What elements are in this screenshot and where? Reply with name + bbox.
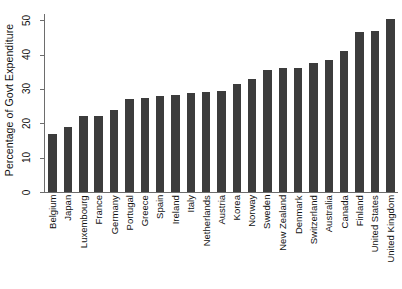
x-tick-label: Italy	[183, 194, 198, 289]
x-tick-label: Canada	[337, 194, 352, 289]
bar	[141, 98, 149, 192]
x-tick-label-text: Belgium	[48, 195, 58, 229]
y-tick-label: 40	[16, 49, 38, 61]
bar	[171, 95, 179, 192]
y-tick-label: 10	[16, 152, 38, 164]
y-tick-label-text: 50	[22, 15, 33, 26]
bar	[294, 68, 302, 192]
bar	[263, 70, 271, 192]
y-tick-label: 20	[16, 117, 38, 129]
x-axis-line	[44, 192, 398, 193]
bar	[156, 96, 164, 192]
x-tick-label-text: Austria	[217, 195, 227, 225]
y-tick-label: 30	[16, 83, 38, 95]
y-tick-mark	[40, 158, 45, 159]
x-tick-label-text: Sweden	[263, 195, 273, 229]
bar	[371, 31, 379, 192]
y-tick-label-text: 10	[22, 152, 33, 163]
x-tick-label: Greece	[137, 194, 152, 289]
x-tick-label: Spain	[152, 194, 167, 289]
y-tick-mark	[40, 55, 45, 56]
y-tick-label-text: 40	[22, 49, 33, 60]
y-tick-mark	[40, 192, 45, 193]
bar	[325, 60, 333, 192]
x-tick-label-text: United States	[370, 195, 380, 252]
x-tick-label-text: United Kingdom	[386, 195, 396, 263]
x-tick-label-text: Italy	[186, 195, 196, 212]
x-tick-label-text: Luxembourg	[79, 195, 89, 248]
x-tick-label-text: Norway	[247, 195, 257, 227]
x-tick-label-text: France	[94, 195, 104, 225]
bar	[64, 127, 72, 192]
x-tick-label: Japan	[60, 194, 75, 289]
y-tick-label: 0	[16, 186, 38, 198]
x-tick-label: Netherlands	[198, 194, 213, 289]
x-tick-label: Luxembourg	[76, 194, 91, 289]
bar	[309, 63, 317, 192]
y-axis-tick-labels: 01020304050	[18, 0, 40, 200]
x-tick-label: Ireland	[168, 194, 183, 289]
x-tick-label: New Zealand	[275, 194, 290, 289]
x-tick-label: United Kingdom	[383, 194, 398, 289]
bar	[217, 91, 225, 192]
x-tick-label-text: Portugal	[125, 195, 135, 230]
x-tick-label: Australia	[321, 194, 336, 289]
x-tick-label: Korea	[229, 194, 244, 289]
x-tick-label: United States	[367, 194, 382, 289]
x-tick-label: Germany	[106, 194, 121, 289]
x-tick-label: Norway	[245, 194, 260, 289]
x-tick-label: Belgium	[45, 194, 60, 289]
x-tick-label-text: Switzerland	[309, 195, 319, 244]
y-tick-mark	[40, 20, 45, 21]
x-tick-label: Austria	[214, 194, 229, 289]
bar	[94, 116, 102, 192]
y-tick-mark	[40, 89, 45, 90]
x-tick-label-text: Greece	[140, 195, 150, 226]
bar	[110, 110, 118, 192]
x-tick-label-text: Korea	[232, 195, 242, 220]
x-tick-label: Denmark	[291, 194, 306, 289]
bar	[279, 68, 287, 192]
x-tick-label: France	[91, 194, 106, 289]
bar	[202, 92, 210, 192]
y-axis-title-text: Percentage of Govt Expenditure	[3, 24, 15, 176]
bar	[187, 93, 195, 192]
x-tick-label: Switzerland	[306, 194, 321, 289]
x-tick-label: Portugal	[122, 194, 137, 289]
bar	[355, 32, 363, 192]
x-tick-label: Finland	[352, 194, 367, 289]
x-tick-label-text: Australia	[324, 195, 334, 232]
x-tick-label-text: Netherlands	[201, 195, 211, 246]
x-tick-label-text: Finland	[355, 195, 365, 226]
y-tick-label-text: 20	[22, 118, 33, 129]
x-tick-label-text: Ireland	[171, 195, 181, 224]
bar	[125, 99, 133, 192]
y-axis-title: Percentage of Govt Expenditure	[0, 0, 18, 200]
bar	[233, 84, 241, 192]
bar	[48, 134, 56, 192]
x-tick-label-text: Spain	[155, 195, 165, 219]
x-tick-label-text: Canada	[340, 195, 350, 228]
y-tick-mark	[40, 123, 45, 124]
x-tick-label-text: Germany	[109, 195, 119, 234]
bar	[386, 19, 394, 192]
x-tick-label-text: New Zealand	[278, 195, 288, 251]
y-tick-label: 50	[16, 14, 38, 26]
bar-chart: Percentage of Govt Expenditure 010203040…	[0, 0, 402, 289]
x-axis-tick-labels: BelgiumJapanLuxembourgFranceGermanyPortu…	[45, 194, 398, 289]
x-tick-label: Sweden	[260, 194, 275, 289]
bar	[340, 51, 348, 192]
y-tick-label-text: 30	[22, 83, 33, 94]
plot-area	[45, 10, 398, 192]
bar	[79, 116, 87, 192]
x-tick-label-text: Denmark	[293, 195, 303, 234]
bar	[248, 79, 256, 192]
y-tick-label-text: 0	[22, 189, 33, 195]
x-tick-label-text: Japan	[63, 195, 73, 221]
